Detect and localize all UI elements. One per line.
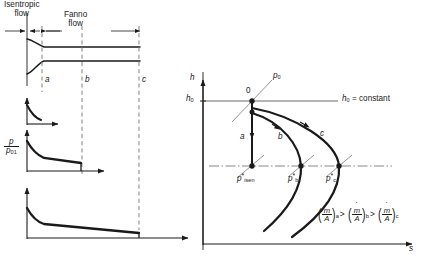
state-point-p-star-c	[336, 163, 341, 168]
inequality-paren-open-3: (	[378, 206, 382, 224]
state-point-p-star-isen	[249, 163, 254, 168]
inequality-paren-open-1: (	[318, 206, 322, 224]
hs-s-axis-label: s	[409, 245, 413, 254]
mdot-symbol-1: m	[324, 207, 330, 215]
p0-isobar-subscript: 0	[278, 74, 281, 80]
inequality-numerator-3: m	[382, 207, 392, 216]
isentropic-flow-label-line2: flow	[14, 9, 29, 18]
pressure-ratio-fraction: p p01	[4, 138, 19, 156]
duct-upper-wall	[27, 39, 140, 47]
inequality-numerator-2: m	[352, 207, 362, 216]
mdot-symbol-2: m	[354, 207, 360, 215]
fanno-flow-label: Fanno flow	[64, 11, 87, 28]
plot-pressure-ratio-long-group	[27, 188, 188, 239]
stagnation-point-label: 0	[246, 87, 251, 96]
h0-axis-tick-label: h0	[186, 95, 194, 104]
plot-velocity-group	[27, 98, 58, 125]
inequality-denominator-2: A	[352, 215, 362, 223]
state-point-inlet-b	[250, 110, 255, 115]
mdot-symbol-3: m	[384, 207, 390, 215]
isentropic-flow-label: Isentropic flow	[4, 1, 40, 18]
h0-axis-tick-subscript: 0	[191, 97, 194, 103]
plot3-curve	[27, 208, 139, 233]
inequality-gt-2: >	[369, 209, 376, 219]
plot-pressure-ratio-short-group	[27, 130, 104, 172]
inequality-gt-1: >	[339, 209, 346, 219]
p-star-isen-label: p*isen	[237, 172, 255, 184]
inequality-numerator-1: m	[322, 207, 332, 216]
hs-curve-label-c: c	[320, 130, 324, 139]
state-point-p-star-b	[298, 163, 303, 168]
p-star-b-label: p*b	[288, 172, 298, 184]
duct-geometry-group	[5, 13, 140, 230]
p-star-c-subscript: c	[333, 177, 336, 183]
pressure-ratio-axis-label: p p01	[4, 138, 19, 156]
hs-curve-label-b: b	[278, 133, 283, 142]
h0-constant-text: = constant	[352, 94, 390, 103]
inequality-fraction-3: m A	[382, 207, 392, 223]
mass-flux-inequality: ( m A )a> ( m A )b> ( m A )c	[318, 206, 399, 224]
hs-h-axis-label: h	[190, 74, 195, 83]
p-star-isen-subscript: isen	[244, 177, 254, 183]
station-label-b: b	[85, 76, 90, 85]
inequality-fraction-1: m A	[322, 207, 332, 223]
h0-constant-label: h0 = constant	[342, 95, 390, 104]
inequality-denominator-3: A	[382, 215, 392, 223]
p-star-b-subscript: b	[295, 177, 298, 183]
inequality-denominator-1: A	[322, 215, 332, 223]
fanno-flow-figure: Isentropic flow Fanno flow a b c p p01 h…	[0, 0, 425, 259]
inequality-paren-close-3: )	[392, 206, 396, 224]
fanno-flow-label-line2: flow	[68, 19, 83, 28]
p0-isobar-label: p0	[273, 72, 281, 81]
plot1-curve	[27, 105, 41, 120]
station-label-a: a	[45, 76, 50, 85]
hs-curve-label-a: a	[240, 133, 245, 142]
inequality-fraction-2: m A	[352, 207, 362, 223]
inequality-subscript-c: c	[396, 213, 399, 219]
station-label-c: c	[142, 76, 146, 85]
state-point-0	[249, 98, 254, 103]
inequality-paren-open-2: (	[348, 206, 352, 224]
inequality-paren-close-1: )	[332, 206, 336, 224]
plot2-curve	[27, 141, 81, 163]
duct-lower-wall	[27, 61, 140, 74]
inequality-paren-close-2: )	[362, 206, 366, 224]
p-star-c-label: p*c	[326, 172, 336, 184]
pressure-ratio-denominator: p01	[4, 147, 19, 156]
h0-constant-subscript: 0	[347, 97, 350, 103]
pressure-ratio-denominator-subscript: 01	[11, 149, 17, 155]
